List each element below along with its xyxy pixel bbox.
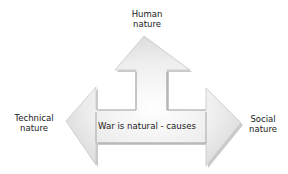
top-label-line2: nature [125,19,169,29]
right-label: Social nature [243,114,283,134]
right-label-line1: Social [243,114,283,124]
right-label-line2: nature [243,124,283,134]
three-way-arrow-diagram: Human nature Technical nature Social nat… [0,0,288,174]
center-label: War is natural - causes [98,121,196,131]
left-label-line2: nature [8,123,60,133]
left-label: Technical nature [8,113,60,133]
top-label: Human nature [125,9,169,29]
top-label-line1: Human [125,9,169,19]
left-label-line1: Technical [8,113,60,123]
